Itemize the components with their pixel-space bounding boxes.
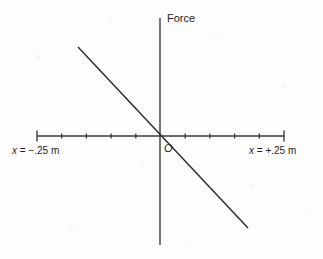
- force-position-graph-figure: Force O x = −.25 m x = +.25 m: [0, 0, 323, 259]
- x-axis-right-label: x = +.25 m: [249, 146, 296, 156]
- graph-canvas: [0, 0, 323, 259]
- x-axis-left-value: = −.25 m: [17, 145, 59, 156]
- origin-label: O: [164, 143, 173, 154]
- vertical-axis-title: Force: [167, 13, 195, 24]
- force-data-line: [78, 47, 248, 228]
- x-axis-right-value: = +.25 m: [254, 145, 296, 156]
- x-axis-left-label: x = −.25 m: [12, 146, 59, 156]
